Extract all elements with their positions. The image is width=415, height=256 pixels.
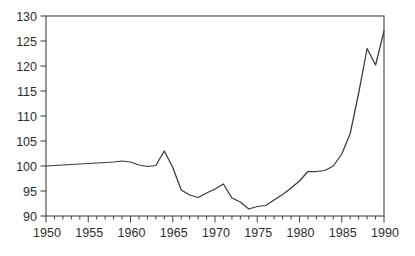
y-tick-label: 105 [16,135,37,149]
x-tick-label: 1985 [329,226,357,240]
y-tick-label: 125 [16,35,37,49]
x-tick-label: 1975 [244,226,272,240]
x-tick-label: 1970 [202,226,230,240]
x-tick-label: 1950 [33,226,61,240]
x-tick-label: 1980 [287,226,315,240]
chart-figure: 9095100105110115120125130195019551960196… [0,0,415,256]
y-tick-label: 90 [23,210,37,224]
chart-background [0,0,415,256]
x-tick-label: 1960 [118,226,146,240]
y-tick-label: 95 [23,185,37,199]
line-chart-canvas: 9095100105110115120125130195019551960196… [0,0,415,256]
y-tick-label: 100 [16,160,37,174]
y-tick-label: 110 [17,110,37,124]
y-tick-label: 120 [16,60,37,74]
x-tick-label: 1990 [371,226,399,240]
x-tick-label: 1955 [75,226,103,240]
y-tick-label: 130 [16,10,37,24]
y-tick-label: 115 [17,85,37,99]
x-tick-label: 1965 [160,226,188,240]
